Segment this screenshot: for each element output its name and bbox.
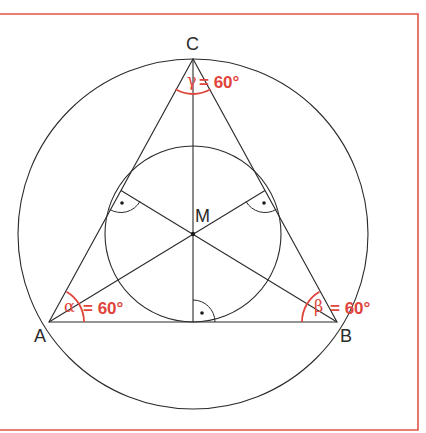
alpha-value: = 60° xyxy=(83,299,124,318)
median-from-a xyxy=(49,191,265,323)
beta-value: = 60° xyxy=(330,299,371,318)
vertex-label-c: C xyxy=(186,34,199,54)
median-from-b xyxy=(121,191,337,323)
gamma-value: = 60° xyxy=(199,73,240,92)
beta-symbol: β xyxy=(314,297,323,316)
center-label-m: M xyxy=(195,206,210,226)
gamma-symbol: γ xyxy=(187,71,197,90)
right-angle-marker-ab xyxy=(193,300,215,322)
geometry-figure: C A B M γ = 60° α = 60° β = 60° xyxy=(0,0,426,433)
alpha-symbol: α xyxy=(64,297,75,316)
vertex-label-b: B xyxy=(340,326,352,346)
center-point-m xyxy=(191,232,195,236)
diagram-canvas: C A B M γ = 60° α = 60° β = 60° xyxy=(0,0,426,433)
vertex-label-a: A xyxy=(34,326,46,346)
